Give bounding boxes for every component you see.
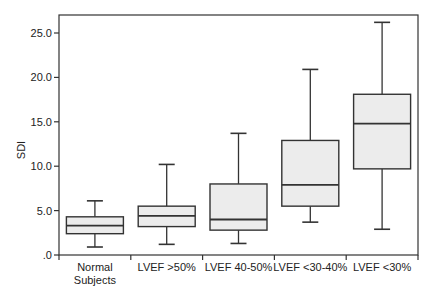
boxes [66,22,410,247]
box-5 [354,22,411,229]
iqr-box [210,184,267,230]
y-tick-label: 25.0 [31,27,52,39]
x-axis: NormalSubjectsLVEF >50%LVEF 40-50%LVEF <… [74,255,418,286]
x-category-label: LVEF <30-40% [273,261,347,273]
iqr-box [354,94,411,169]
y-tick-label: 5.0 [37,205,52,217]
box-4 [282,69,339,222]
y-tick-label: .0 [43,249,52,261]
x-category-label: LVEF >50% [138,261,196,273]
y-tick-label: 10.0 [31,160,52,172]
y-axis: .05.010.015.020.025.0 [31,27,59,261]
x-category-label: LVEF 40-50% [205,261,273,273]
iqr-box [282,140,339,206]
x-category-label: Normal [77,261,112,273]
y-tick-label: 15.0 [31,116,52,128]
box-2 [138,164,195,244]
x-category-label: Subjects [74,274,117,286]
box-3 [210,133,267,243]
y-tick-label: 20.0 [31,71,52,83]
x-category-label: LVEF <30% [353,261,411,273]
y-axis-title: SDI [15,141,27,159]
box-1 [66,201,123,247]
box-plot-chart: .05.010.015.020.025.0 NormalSubjectsLVEF… [0,0,430,299]
